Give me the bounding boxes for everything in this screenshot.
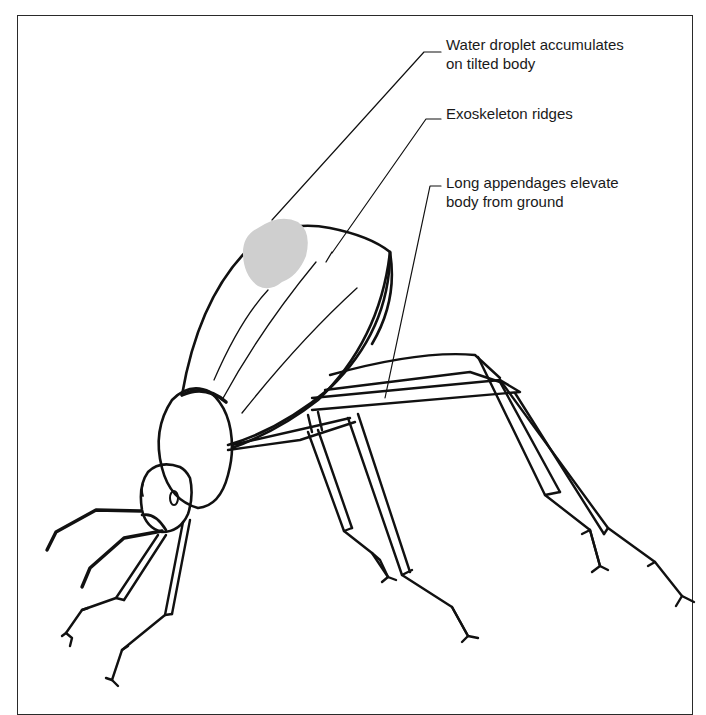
leader-legs <box>385 186 441 398</box>
label-water-droplet: Water droplet accumulates on tilted body <box>446 35 624 73</box>
thorax <box>159 388 232 508</box>
label-long-appendages: Long appendages elevate body from ground <box>446 173 619 211</box>
label-line: on tilted body <box>446 54 624 73</box>
leader-droplet <box>272 52 441 220</box>
front-legs <box>62 520 190 686</box>
label-line: body from ground <box>446 192 619 211</box>
label-line: Water droplet accumulates <box>446 35 624 54</box>
antennae <box>47 510 162 587</box>
label-line: Exoskeleton ridges <box>446 104 573 123</box>
label-exoskeleton-ridges: Exoskeleton ridges <box>446 104 573 123</box>
middle-legs <box>228 412 478 642</box>
water-droplet <box>243 219 308 289</box>
label-line: Long appendages elevate <box>446 173 619 192</box>
